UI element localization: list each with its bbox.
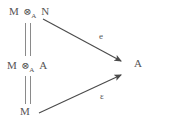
upper-arrow-label: e [99, 31, 103, 41]
lower-arrow-line [39, 75, 121, 113]
upper-arrow-line [43, 19, 121, 61]
lower-arrow-label: ε [100, 91, 104, 101]
arrow-layer [0, 0, 169, 126]
commutative-diagram: M⊗AN M⊗AA M A e ε [0, 0, 169, 126]
